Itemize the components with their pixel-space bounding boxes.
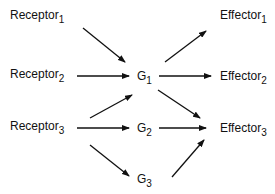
effector-2-subscript: 2 (261, 75, 267, 86)
arrow-receptor1-g1 (83, 28, 125, 62)
arrows-layer (0, 0, 275, 194)
g2-label: G (137, 121, 146, 135)
receptor-2-node: Receptor2 (10, 67, 64, 81)
arrow-g1-effector1 (165, 31, 206, 62)
signaling-diagram: Receptor1 Receptor2 Receptor3 G1 G2 G3 E… (0, 0, 275, 194)
g3-subscript: 3 (146, 178, 152, 189)
receptor-1-subscript: 1 (59, 14, 65, 25)
g3-label: G (137, 172, 146, 186)
effector-2-node: Effector2 (220, 69, 267, 83)
g1-subscript: 1 (146, 75, 152, 86)
arrow-receptor3-g3 (90, 145, 129, 176)
effector-1-label: Effector (220, 8, 261, 22)
effector-3-node: Effector3 (220, 121, 267, 135)
receptor-1-label: Receptor (10, 8, 59, 22)
arrow-receptor3-g1 (90, 95, 132, 118)
g1-label: G (137, 69, 146, 83)
receptor-3-node: Receptor3 (10, 119, 64, 133)
effector-3-label: Effector (220, 121, 261, 135)
receptor-2-subscript: 2 (59, 73, 65, 84)
arrow-g3-effector3 (172, 140, 204, 177)
arrow-g1-effector3 (158, 90, 200, 118)
g2-node: G2 (137, 121, 152, 135)
effector-1-subscript: 1 (261, 14, 267, 25)
g3-node: G3 (137, 172, 152, 186)
receptor-3-label: Receptor (10, 119, 59, 133)
receptor-2-label: Receptor (10, 67, 59, 81)
receptor-1-node: Receptor1 (10, 8, 64, 22)
g1-node: G1 (137, 69, 152, 83)
effector-2-label: Effector (220, 69, 261, 83)
receptor-3-subscript: 3 (59, 125, 65, 136)
g2-subscript: 2 (146, 127, 152, 138)
effector-1-node: Effector1 (220, 8, 267, 22)
effector-3-subscript: 3 (261, 127, 267, 138)
